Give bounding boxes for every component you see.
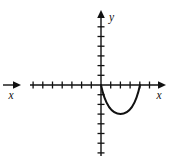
y-axis-arrow-head-icon [97, 10, 105, 18]
y-axis-label: y [108, 11, 115, 24]
edge-arrow-label: x [7, 89, 14, 101]
x-axis-arrow-head-icon [158, 81, 166, 89]
edge-arrow-head-icon [13, 81, 21, 89]
y-axis: y [97, 10, 115, 156]
edge-arrow-fragment: x [3, 81, 21, 101]
coordinate-graph: x x [0, 0, 171, 164]
x-axis-label: x [155, 89, 162, 101]
figure-container: x x [0, 0, 171, 164]
parabola-curve [101, 85, 140, 114]
x-axis: x [30, 81, 166, 101]
